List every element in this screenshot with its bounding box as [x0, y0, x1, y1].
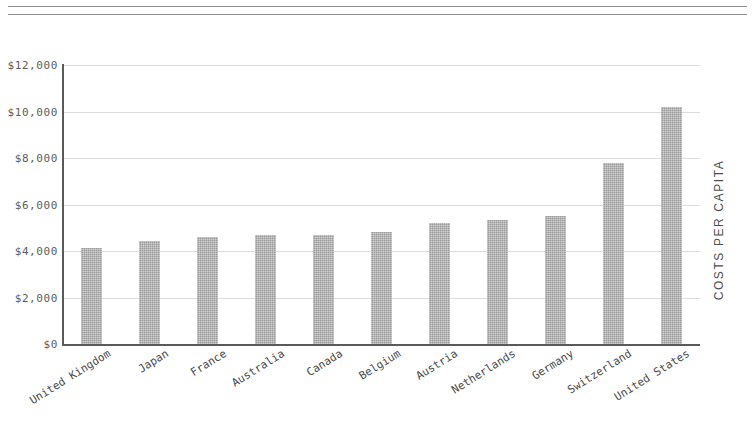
header-rule-bottom: [8, 14, 747, 15]
x-axis-category-label-text: France: [188, 347, 229, 379]
x-axis-category-label: Japan: [136, 347, 171, 376]
x-axis-category-label: Germany: [530, 347, 576, 383]
bar: [371, 232, 392, 344]
y-axis-tick-label: $0: [0, 338, 58, 351]
x-axis-category-label-text: Belgium: [356, 347, 402, 383]
y-axis-title-text: COSTS PER CAPITA: [712, 160, 726, 301]
x-axis-category-label: Canada: [304, 347, 345, 379]
bar: [545, 216, 566, 344]
y-axis-tick-labels: $0$2,000$4,000$6,000$8,000$10,000$12,000: [0, 0, 58, 432]
bar: [487, 220, 508, 344]
bar: [255, 235, 276, 344]
bar: [429, 223, 450, 344]
bar-series: [63, 65, 700, 344]
x-axis-line: [62, 344, 700, 346]
y-axis-title: COSTS PER CAPITA: [706, 130, 732, 330]
x-axis-category-label-text: Japan: [136, 347, 171, 376]
bar: [661, 107, 682, 344]
x-axis-category-label: Austria: [414, 347, 460, 383]
x-axis-category-label: Belgium: [356, 347, 402, 383]
y-axis-tick-label: $6,000: [0, 198, 58, 211]
header-double-rule: [8, 4, 747, 20]
header-rule-top: [8, 6, 747, 7]
y-axis-tick-label: $8,000: [0, 152, 58, 165]
x-axis-category-label-text: Netherlands: [450, 347, 519, 397]
x-axis-category-label-text: Germany: [530, 347, 576, 383]
x-axis-category-label: Netherlands: [450, 347, 519, 397]
bar-chart: $0$2,000$4,000$6,000$8,000$10,000$12,000…: [0, 0, 755, 432]
x-axis-category-label-text: Australia: [229, 347, 286, 390]
bar: [139, 241, 160, 344]
x-axis-category-label: Australia: [229, 347, 286, 390]
y-axis-tick-label: $12,000: [0, 59, 58, 72]
bar: [603, 163, 624, 344]
bar: [313, 235, 334, 344]
x-axis-category-label: France: [188, 347, 229, 379]
x-axis-category-label-text: Austria: [414, 347, 460, 383]
y-axis-tick-label: $2,000: [0, 291, 58, 304]
y-axis-tick-label: $10,000: [0, 105, 58, 118]
x-axis-category-labels: United KingdomJapanFranceAustraliaCanada…: [63, 347, 700, 432]
x-axis-category-label-text: Canada: [304, 347, 345, 379]
bar: [81, 248, 102, 344]
bar: [197, 237, 218, 344]
y-axis-tick-label: $4,000: [0, 245, 58, 258]
